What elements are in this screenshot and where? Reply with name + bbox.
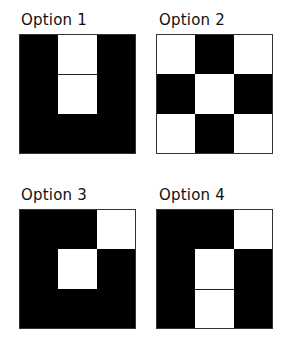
grid-cell-filled bbox=[97, 35, 135, 74]
grid-cell-filled bbox=[195, 114, 233, 153]
grid-cell-filled bbox=[97, 289, 135, 328]
grid-cell-filled bbox=[97, 74, 135, 113]
grid-cell-empty bbox=[97, 210, 135, 249]
grid-cell-filled bbox=[97, 249, 135, 288]
grid-cell-filled bbox=[58, 210, 96, 249]
grid-cell-filled bbox=[20, 210, 58, 249]
option-3-label: Option 3 bbox=[21, 186, 87, 204]
grid-cell-empty bbox=[234, 114, 272, 153]
grid-cell-filled bbox=[97, 114, 135, 153]
option-1[interactable]: Option 1 bbox=[0, 0, 142, 175]
option-1-grid bbox=[19, 34, 136, 154]
grid-cell-filled bbox=[58, 289, 96, 328]
grid-cell-filled bbox=[20, 249, 58, 288]
grid-cell-filled bbox=[157, 289, 195, 328]
grid-cell-empty bbox=[195, 249, 233, 288]
grid-cell-filled bbox=[234, 74, 272, 113]
option-4-grid bbox=[156, 209, 273, 329]
grid-cell-filled bbox=[157, 249, 195, 288]
grid-cell-filled bbox=[20, 35, 58, 74]
grid-cell-empty bbox=[58, 249, 96, 288]
grid-cell-empty bbox=[157, 114, 195, 153]
grid-cell-filled bbox=[20, 289, 58, 328]
option-3-grid bbox=[19, 209, 136, 329]
grid-cell-empty bbox=[58, 74, 96, 113]
grid-cell-empty bbox=[58, 35, 96, 74]
grid-cell-filled bbox=[234, 289, 272, 328]
grid-cell-filled bbox=[195, 35, 233, 74]
option-2-label: Option 2 bbox=[159, 11, 225, 29]
grid-cell-empty bbox=[195, 289, 233, 328]
grid-cell-empty bbox=[234, 210, 272, 249]
grid-cell-empty bbox=[234, 35, 272, 74]
grid-cell-filled bbox=[157, 210, 195, 249]
grid-cell-empty bbox=[157, 35, 195, 74]
grid-cell-filled bbox=[195, 210, 233, 249]
grid-cell-filled bbox=[157, 74, 195, 113]
grid-cell-filled bbox=[58, 114, 96, 153]
grid-cell-empty bbox=[195, 74, 233, 113]
grid-cell-filled bbox=[20, 114, 58, 153]
option-1-label: Option 1 bbox=[21, 11, 87, 29]
option-2-grid bbox=[156, 34, 273, 154]
grid-cell-filled bbox=[234, 249, 272, 288]
grid-cell-filled bbox=[20, 74, 58, 113]
option-4-label: Option 4 bbox=[159, 186, 225, 204]
